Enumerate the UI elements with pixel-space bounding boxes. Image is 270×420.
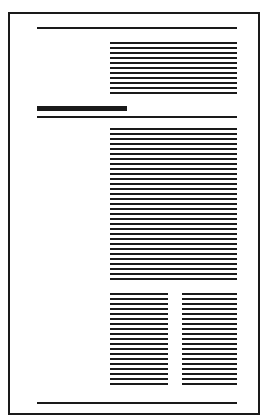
text-line [182, 373, 237, 375]
text-line [182, 313, 237, 315]
text-line [110, 203, 237, 205]
left-column-text-block [110, 293, 168, 388]
text-line [110, 308, 168, 310]
intro-text-block [110, 42, 237, 97]
text-line [110, 188, 237, 190]
text-line [110, 303, 168, 305]
text-line [110, 228, 237, 230]
text-line [182, 323, 237, 325]
text-line [110, 138, 237, 140]
text-line [110, 368, 168, 370]
text-line [110, 128, 237, 130]
text-line [110, 153, 237, 155]
text-line [110, 148, 237, 150]
text-line [110, 363, 168, 365]
text-line [182, 333, 237, 335]
text-line [110, 223, 237, 225]
text-line [110, 67, 237, 69]
text-line [110, 328, 168, 330]
text-line [110, 233, 237, 235]
text-line [110, 198, 237, 200]
text-line [110, 163, 237, 165]
top-rule [37, 27, 237, 29]
right-column-text-block [182, 293, 237, 388]
text-line [182, 293, 237, 295]
text-line [110, 168, 237, 170]
text-line [110, 238, 237, 240]
text-line [110, 42, 237, 44]
text-line [110, 348, 168, 350]
text-line [110, 82, 237, 84]
text-line [182, 348, 237, 350]
main-text-block [110, 128, 237, 283]
text-line [182, 328, 237, 330]
text-line [110, 62, 237, 64]
text-line [110, 248, 237, 250]
text-line [110, 218, 237, 220]
text-line [110, 273, 237, 275]
text-line [110, 318, 168, 320]
text-line [110, 343, 168, 345]
text-line [110, 92, 237, 94]
text-line [110, 193, 237, 195]
text-line [182, 338, 237, 340]
text-line [110, 323, 168, 325]
section-rule [37, 116, 237, 118]
text-line [110, 213, 237, 215]
bottom-rule [37, 402, 237, 404]
text-line [110, 253, 237, 255]
text-line [110, 313, 168, 315]
text-line [110, 178, 237, 180]
text-line [110, 52, 237, 54]
text-line [110, 373, 168, 375]
text-line [182, 353, 237, 355]
text-line [110, 333, 168, 335]
text-line [110, 72, 237, 74]
text-line [182, 368, 237, 370]
text-line [110, 338, 168, 340]
text-line [182, 298, 237, 300]
text-line [110, 378, 168, 380]
text-line [110, 293, 168, 295]
text-line [110, 143, 237, 145]
text-line [182, 318, 237, 320]
text-line [110, 298, 168, 300]
text-line [110, 158, 237, 160]
text-line [182, 358, 237, 360]
text-line [110, 268, 237, 270]
text-line [110, 57, 237, 59]
text-line [182, 378, 237, 380]
text-line [182, 363, 237, 365]
text-line [110, 208, 237, 210]
text-line [182, 308, 237, 310]
text-line [110, 358, 168, 360]
text-line [110, 263, 237, 265]
text-line [110, 243, 237, 245]
text-line [182, 343, 237, 345]
text-line [110, 47, 237, 49]
text-line [182, 383, 237, 385]
text-line [110, 278, 237, 280]
section-heading-bar [37, 106, 127, 111]
text-line [110, 383, 168, 385]
text-line [110, 133, 237, 135]
text-line [110, 173, 237, 175]
text-line [110, 353, 168, 355]
text-line [110, 183, 237, 185]
text-line [110, 77, 237, 79]
text-line [110, 258, 237, 260]
text-line [110, 87, 237, 89]
text-line [182, 303, 237, 305]
